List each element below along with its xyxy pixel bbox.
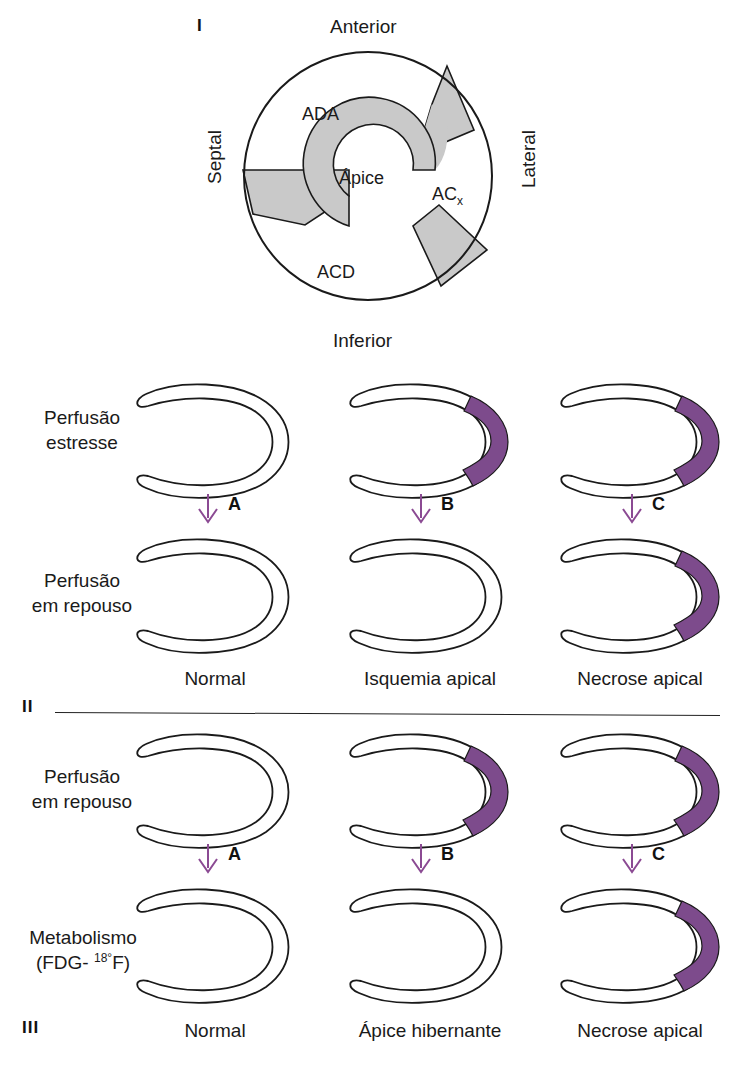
arrow-letter-a-panel-three: A bbox=[228, 844, 241, 865]
arrow-down-b-panel-three bbox=[403, 842, 439, 876]
row-label-rest-perfusion-panel-two: Perfusão em repouso bbox=[18, 568, 146, 618]
row-label-rest-perfusion-panel-three: Perfusão em repouso bbox=[18, 764, 146, 814]
column-caption-necrosis-panel-three: Necrose apical bbox=[545, 1020, 735, 1042]
arrow-down-c-panel-two bbox=[614, 492, 650, 526]
myocardium-shape-rest-necrosis bbox=[556, 535, 724, 657]
direction-label-anterior: Anterior bbox=[330, 16, 397, 38]
arrow-letter-c-panel-three: C bbox=[652, 844, 665, 865]
myocardium-shape-metabolism-necrosis bbox=[556, 885, 724, 1007]
territory-label-acx-text: AC bbox=[432, 184, 457, 204]
arrow-down-a-panel-three bbox=[190, 842, 226, 876]
arrow-letter-c-panel-two: C bbox=[652, 494, 665, 515]
row-label-line-1: Perfusão bbox=[44, 407, 120, 428]
myocardium-shape-metabolism-hibernating bbox=[345, 885, 513, 1007]
column-caption-necrosis-panel-two: Necrose apical bbox=[545, 668, 735, 690]
myocardium-shape-rest-hibernating bbox=[345, 730, 513, 852]
arrow-letter-b-panel-two: B bbox=[441, 494, 454, 515]
myocardium-shape-rest-ischemia bbox=[345, 535, 513, 657]
row-label-line-1: Perfusão bbox=[44, 570, 120, 591]
myocardium-shape-stress-normal bbox=[132, 380, 300, 502]
panel-numeral-two: II bbox=[22, 697, 33, 717]
panel-numeral-one: I bbox=[197, 16, 203, 36]
metabolism-tracer-prefix: (FDG- bbox=[36, 952, 94, 973]
column-caption-hibernating-panel-three: Ápice hibernante bbox=[330, 1020, 530, 1042]
territory-label-ada: ADA bbox=[302, 104, 339, 125]
panel-divider-line bbox=[55, 712, 720, 716]
myocardium-shape-stress-necrosis bbox=[556, 380, 724, 502]
myocardium-shape-metabolism-normal bbox=[132, 885, 300, 1007]
arrow-down-b-panel-two bbox=[403, 492, 439, 526]
direction-label-lateral: Lateral bbox=[518, 130, 540, 188]
myocardium-shape-stress-ischemia bbox=[345, 380, 513, 502]
territory-label-acx-subscript: x bbox=[457, 194, 463, 208]
territory-label-acd: ACD bbox=[317, 262, 355, 283]
row-label-line-2: em repouso bbox=[32, 791, 132, 812]
row-label-line-2: em repouso bbox=[32, 595, 132, 616]
myocardium-shape-rest-necrosis-panel-three bbox=[556, 730, 724, 852]
row-label-stress-perfusion: Perfusão estresse bbox=[18, 405, 146, 455]
myocardium-shape-rest-normal bbox=[132, 535, 300, 657]
column-caption-ischemia-panel-two: Isquemia apical bbox=[330, 668, 530, 690]
row-label-line-1: Perfusão bbox=[44, 766, 120, 787]
metabolism-tracer-superscript: 18° bbox=[94, 951, 112, 965]
direction-label-septal: Septal bbox=[204, 130, 226, 184]
arrow-letter-a-panel-two: A bbox=[228, 494, 241, 515]
arrow-letter-b-panel-three: B bbox=[441, 844, 454, 865]
column-caption-normal-panel-two: Normal bbox=[130, 668, 300, 690]
panel-numeral-three: III bbox=[22, 1018, 39, 1038]
myocardium-shape-rest-normal-panel-three bbox=[132, 730, 300, 852]
territory-label-apice: Ápice bbox=[339, 168, 384, 189]
arrow-down-a-panel-two bbox=[190, 492, 226, 526]
direction-label-inferior: Inferior bbox=[333, 330, 392, 352]
arrow-down-c-panel-three bbox=[614, 842, 650, 876]
row-label-line-1: Metabolismo bbox=[29, 927, 137, 948]
column-caption-normal-panel-three: Normal bbox=[130, 1020, 300, 1042]
row-label-line-2: estresse bbox=[46, 432, 118, 453]
territory-label-acx: ACx bbox=[432, 184, 463, 208]
metabolism-tracer-suffix: F) bbox=[112, 952, 130, 973]
row-label-line-2: (FDG- 18°F) bbox=[36, 952, 130, 973]
panel-one-bullseye: I Anterior Inferior Septal Lateral ADA Á… bbox=[0, 0, 744, 370]
